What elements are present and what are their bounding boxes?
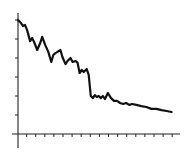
y-axis xyxy=(15,13,18,148)
data-series-line xyxy=(18,20,172,112)
line-chart xyxy=(0,0,187,158)
x-axis xyxy=(12,134,180,137)
